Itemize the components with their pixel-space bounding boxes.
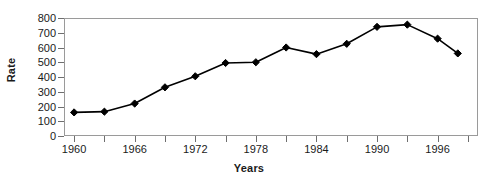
y-tick-mark <box>58 33 64 34</box>
y-tick-mark <box>58 92 64 93</box>
y-tick-mark <box>58 107 64 108</box>
x-tick-mark <box>226 136 227 142</box>
x-tick-label: 1960 <box>62 144 86 155</box>
y-tick-label: 500 <box>18 57 60 68</box>
y-tick-mark <box>58 18 64 19</box>
y-tick-label: 100 <box>18 116 60 127</box>
x-tick-label: 1978 <box>244 144 268 155</box>
x-tick-mark <box>407 136 408 142</box>
x-tick-mark <box>286 136 287 142</box>
x-tick-mark <box>347 136 348 142</box>
x-tick-label: 1990 <box>365 144 389 155</box>
x-axis-title-label: Years <box>234 162 264 174</box>
y-tick-mark <box>58 77 64 78</box>
line-chart: Rate 0100200300400500600700800 Years 196… <box>0 0 498 183</box>
y-tick-mark <box>58 121 64 122</box>
x-tick-mark <box>104 136 105 142</box>
x-axis-title: Years <box>0 162 498 174</box>
x-tick-mark <box>135 136 136 142</box>
y-tick-label: 400 <box>18 72 60 83</box>
x-tick-mark <box>316 136 317 142</box>
y-tick-label: 200 <box>18 101 60 112</box>
y-tick-label: 800 <box>18 13 60 24</box>
x-tick-mark <box>256 136 257 142</box>
y-tick-mark <box>58 62 64 63</box>
y-axis-title-label: Rate <box>5 58 17 83</box>
x-tick-mark <box>468 136 469 142</box>
y-tick-mark <box>58 136 64 137</box>
y-tick-mark <box>58 48 64 49</box>
x-tick-mark <box>438 136 439 142</box>
y-tick-label: 300 <box>18 86 60 97</box>
y-tick-label: 700 <box>18 27 60 38</box>
y-tick-label: 0 <box>18 131 60 142</box>
y-tick-label: 600 <box>18 42 60 53</box>
x-tick-mark <box>165 136 166 142</box>
x-tick-mark <box>195 136 196 142</box>
x-tick-label: 1972 <box>183 144 207 155</box>
y-axis-tick-labels: 0100200300400500600700800 <box>18 0 60 183</box>
x-tick-label: 1966 <box>122 144 146 155</box>
x-tick-mark <box>377 136 378 142</box>
x-tick-label: 1984 <box>304 144 328 155</box>
x-tick-label: 1996 <box>425 144 449 155</box>
plot-area <box>64 18 478 136</box>
x-tick-mark <box>74 136 75 142</box>
